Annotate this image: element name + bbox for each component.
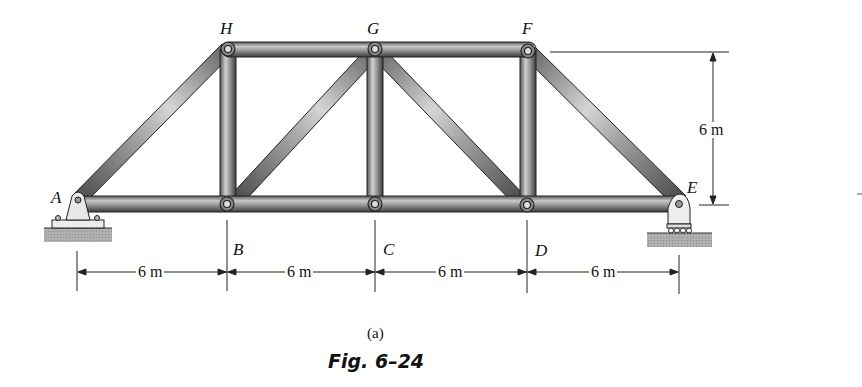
figure-caption: Fig. 6–24 — [328, 350, 424, 372]
member-FE — [522, 46, 686, 204]
member-AH — [72, 44, 234, 204]
member-FD — [520, 52, 536, 206]
ground-left — [44, 228, 112, 242]
height-dimension-label: 6 m — [697, 122, 725, 138]
member-GC — [367, 50, 383, 204]
truss-members — [72, 42, 686, 212]
label-D: D — [535, 242, 547, 259]
label-E: E — [687, 179, 697, 196]
span-3-label: 6 m — [436, 264, 464, 280]
member-HB — [220, 50, 236, 204]
label-G: G — [367, 20, 379, 37]
span-2-label: 6 m — [285, 264, 313, 280]
label-F: F — [522, 20, 532, 37]
label-H: H — [220, 20, 232, 37]
label-C: C — [383, 241, 394, 258]
ground-right — [647, 233, 712, 247]
label-B: B — [233, 241, 243, 258]
subfigure-label: (a) — [367, 325, 384, 342]
span-dimensions — [77, 220, 679, 294]
span-4-label: 6 m — [589, 264, 617, 280]
member-GD — [369, 46, 527, 204]
truss-diagram — [0, 0, 862, 387]
label-A: A — [51, 189, 61, 206]
span-1-label: 6 m — [136, 264, 164, 280]
member-BG — [230, 46, 381, 204]
